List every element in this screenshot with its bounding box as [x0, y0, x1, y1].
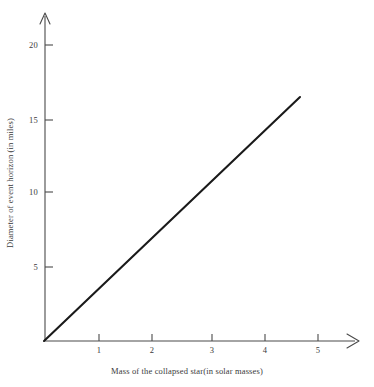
data-series-line: [44, 97, 300, 341]
x-axis-title: Mass of the collapsed star(in solar mass…: [111, 366, 263, 376]
x-tick-label-3: 3: [210, 345, 214, 355]
x-tick-label-5: 5: [316, 345, 320, 355]
x-tick-label-4: 4: [263, 345, 267, 355]
y-tick-marks: [45, 45, 53, 267]
x-tick-marks: [99, 334, 318, 341]
y-tick-label-5: 5: [22, 262, 38, 272]
chart-figure: 1 2 3 4 5 5 10 15 20 Mass of the collaps…: [0, 0, 374, 387]
y-tick-label-20: 20: [22, 40, 38, 50]
chart-plot-area: [0, 0, 374, 387]
y-tick-label-15: 15: [22, 115, 38, 125]
x-tick-label-2: 2: [150, 345, 154, 355]
y-axis-title: Diameter of event horizon (in miles): [5, 118, 15, 248]
x-tick-label-1: 1: [97, 345, 101, 355]
y-tick-label-10: 10: [22, 187, 38, 197]
